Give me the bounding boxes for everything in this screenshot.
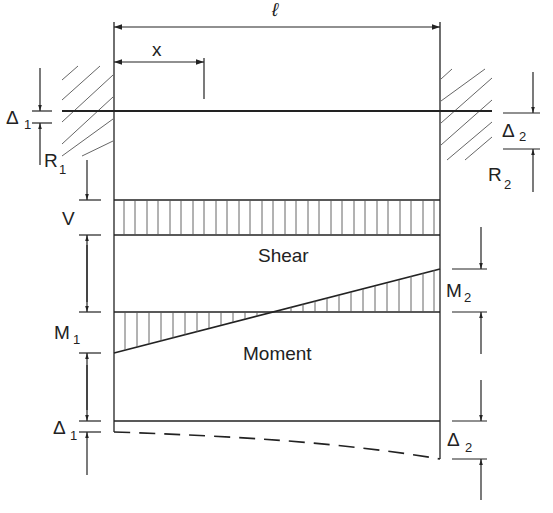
delta2-bottom-label: Δ	[447, 429, 460, 450]
m2-sub: 2	[464, 290, 471, 305]
r1-sub: 1	[59, 162, 66, 177]
delta1-bottom-label: Δ	[53, 417, 66, 438]
delta1-bottom-sub: 1	[70, 428, 77, 443]
position-label: x	[152, 39, 162, 60]
m1-sub: 1	[73, 332, 80, 347]
shear-caption: Shear	[258, 245, 309, 266]
beam-diagram: ℓ x Δ 1 R 1 Δ 2 R 2	[0, 0, 553, 513]
delta1-bottom-dimension	[79, 365, 101, 475]
delta2-top-sub: 2	[519, 129, 526, 144]
span-label: ℓ	[271, 0, 279, 20]
m1-label: M	[54, 322, 70, 343]
moment-diagram: Moment	[114, 269, 440, 364]
r2-sub: 2	[504, 177, 511, 192]
moment-caption: Moment	[243, 343, 312, 364]
shear-dimension	[79, 160, 101, 302]
right-support	[441, 69, 492, 160]
delta2-bottom-sub: 2	[465, 440, 472, 455]
shear-value-label: V	[62, 208, 75, 229]
span-dimension: ℓ	[114, 0, 440, 27]
deflection-diagram	[114, 421, 440, 459]
shear-diagram: Shear	[114, 200, 440, 266]
delta1-top-label: Δ	[6, 107, 19, 128]
delta1-top-sub: 1	[24, 117, 31, 132]
m1-dimension	[79, 245, 101, 410]
m2-label: M	[446, 280, 462, 301]
delta2-top-label: Δ	[502, 120, 515, 141]
frame-lines	[114, 22, 440, 459]
r2-label: R	[488, 164, 502, 185]
position-dimension: x	[114, 39, 204, 99]
r1-label: R	[44, 150, 58, 171]
